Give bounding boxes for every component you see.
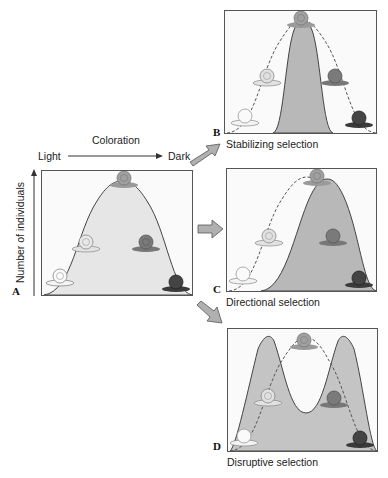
panel-a-original-distribution	[41, 170, 193, 296]
panel-d-caption: Disruptive selection	[227, 456, 318, 468]
arrow-to-c-icon	[196, 218, 226, 240]
snail-lightmid-icon	[255, 229, 283, 246]
panel-d-letter: D	[213, 440, 221, 452]
panel-b-stabilizing	[224, 10, 377, 134]
panel-c-directional	[226, 168, 377, 292]
panel-b-letter: B	[213, 126, 220, 138]
snail-medium-icon	[290, 333, 318, 350]
arrow-to-b-icon	[187, 140, 227, 170]
x-axis-left-label: Light	[38, 150, 61, 162]
snail-dark-icon	[345, 111, 373, 128]
arrow-to-d-icon	[194, 298, 228, 328]
x-axis-title: Coloration	[92, 134, 140, 146]
x-axis-arrow	[66, 151, 166, 161]
panel-d-disruptive	[227, 328, 378, 452]
snail-medium-icon	[303, 169, 331, 186]
snail-medium-icon	[287, 11, 315, 28]
y-axis-arrow	[29, 168, 39, 298]
snail-darkmid-icon	[321, 69, 349, 86]
snail-light-icon	[229, 267, 257, 284]
panel-a-letter: A	[12, 285, 20, 297]
panel-b-caption: Stabilizing selection	[226, 138, 318, 150]
panel-c-letter: C	[213, 283, 221, 295]
snail-lightmid-icon	[253, 69, 281, 86]
snail-light-icon	[231, 109, 259, 126]
snail-medium-icon	[110, 171, 138, 188]
panel-c-caption: Directional selection	[226, 296, 320, 308]
y-axis-title: Number of individuals	[14, 182, 26, 283]
